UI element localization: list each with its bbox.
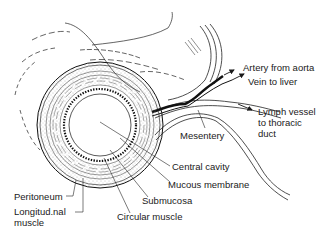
label-artery-from-aorta: Artery from aorta: [243, 62, 314, 73]
intestine-cross-section: [37, 62, 163, 188]
label-lymph-vessel-line1: Lymph vessel: [258, 106, 316, 117]
intestine-diagram: Artery from aorta Vein to liver Lymph ve…: [0, 0, 332, 237]
label-longitudinal-muscle-line2: muscle: [14, 217, 44, 228]
label-circular-muscle: Circular muscle: [117, 211, 182, 222]
label-mesentery: Mesentery: [180, 130, 224, 141]
label-lymph-vessel-line3: duct: [258, 128, 276, 139]
label-longitudinal-muscle-line1: Longitud.nal: [14, 206, 66, 217]
label-submucosa: Submucosa: [142, 195, 192, 206]
label-peritoneum: Peritoneum: [14, 191, 63, 202]
label-vein-to-liver: Vein to liver: [248, 76, 297, 87]
label-lymph-vessel-line2: to thoracic: [258, 117, 302, 128]
blood-vessels: [152, 76, 232, 116]
label-mucous-membrane: Mucous membrane: [168, 179, 249, 190]
label-central-cavity: Central cavity: [172, 161, 230, 172]
